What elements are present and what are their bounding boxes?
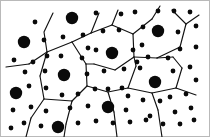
small-dot <box>59 54 64 59</box>
small-dot <box>101 29 106 34</box>
small-dot <box>31 60 36 65</box>
large-dot <box>149 76 161 88</box>
small-dot <box>188 65 193 70</box>
small-dot <box>76 92 81 97</box>
small-dot <box>111 121 116 126</box>
small-dot <box>117 28 122 33</box>
small-dot <box>11 108 16 113</box>
large-dot <box>66 12 78 24</box>
small-dot <box>122 67 127 72</box>
small-dot <box>194 45 199 50</box>
small-dot <box>94 48 99 53</box>
small-dot <box>158 99 163 104</box>
small-dot <box>146 55 151 60</box>
small-dot <box>85 72 90 77</box>
small-dot <box>33 20 38 25</box>
small-dot <box>140 43 145 48</box>
large-dot <box>52 121 64 133</box>
small-dot <box>94 119 99 124</box>
small-dot <box>148 114 153 119</box>
small-dot <box>120 86 125 91</box>
small-dot <box>42 38 47 43</box>
small-dot <box>188 10 193 15</box>
small-dot <box>86 46 91 51</box>
large-dot <box>10 87 22 99</box>
small-dot <box>61 35 66 40</box>
small-dot <box>189 106 194 111</box>
small-dot <box>68 106 73 111</box>
small-dot <box>135 60 140 65</box>
small-dot <box>43 69 48 74</box>
small-dot <box>168 95 173 100</box>
small-dot <box>128 120 133 125</box>
large-dot <box>102 101 114 113</box>
small-dot <box>141 25 146 30</box>
small-dot <box>161 122 166 127</box>
small-dot <box>131 48 136 53</box>
small-dot <box>23 70 28 75</box>
small-dot <box>178 47 183 52</box>
large-dot <box>152 25 164 37</box>
small-dot <box>184 92 189 97</box>
small-dot <box>138 66 143 71</box>
small-dot <box>176 30 181 35</box>
small-dot <box>80 56 85 61</box>
voronoi-canvas <box>0 0 210 137</box>
small-dot <box>156 9 161 14</box>
small-dot <box>192 118 197 123</box>
small-dot <box>106 87 111 92</box>
small-dot <box>94 11 99 16</box>
small-dot <box>173 110 178 115</box>
small-dot <box>86 104 91 109</box>
small-dot <box>9 126 14 131</box>
small-dot <box>39 124 44 129</box>
small-dot <box>102 69 107 74</box>
small-dot <box>60 93 65 98</box>
small-dot <box>44 86 49 91</box>
small-dot <box>12 58 17 63</box>
small-dot <box>141 98 146 103</box>
small-dot <box>44 109 49 114</box>
small-dot <box>144 118 149 123</box>
small-dot <box>22 121 27 126</box>
small-dot <box>81 33 86 38</box>
small-dot <box>119 12 124 17</box>
small-dot <box>194 24 199 29</box>
large-dot <box>106 47 118 59</box>
small-dot <box>166 56 171 61</box>
small-dot <box>172 9 177 14</box>
small-dot <box>76 121 81 126</box>
small-dot <box>45 54 50 59</box>
large-dot <box>18 36 30 48</box>
small-dot <box>178 122 183 127</box>
small-dot <box>171 69 176 74</box>
small-dot <box>126 94 131 99</box>
small-dot <box>93 87 98 92</box>
large-dot <box>58 69 70 81</box>
small-dot <box>194 78 199 83</box>
small-dot <box>133 10 138 15</box>
small-dot <box>29 105 34 110</box>
small-dot <box>27 84 32 89</box>
small-dot <box>124 108 129 113</box>
voronoi-figure <box>0 0 210 137</box>
